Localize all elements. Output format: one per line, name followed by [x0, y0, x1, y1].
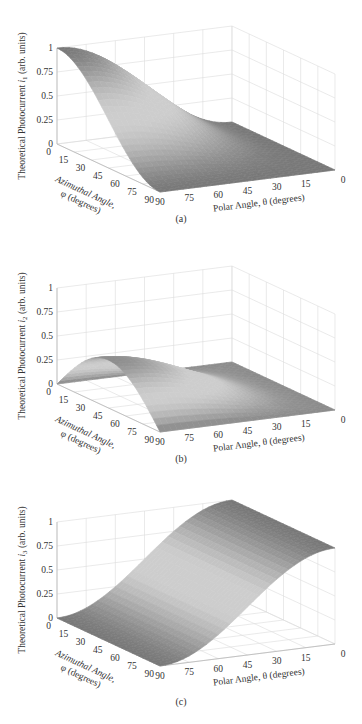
z-axis-label: Theoretical Photocurrent i3 (arb. units)	[17, 506, 29, 653]
surface	[57, 500, 335, 666]
phi-tick: 60	[110, 419, 120, 429]
z-tick: 0.75	[36, 307, 53, 317]
z-tick: 0.25	[36, 115, 53, 125]
theta-tick: 60	[214, 664, 224, 674]
plot-area: 00.250.50.75101530456075909075604530150T…	[17, 26, 346, 225]
panel-a: 00.250.50.75101530456075909075604530150T…	[0, 0, 362, 240]
theta-tick: 60	[214, 430, 224, 440]
phi-tick: 45	[93, 645, 103, 655]
theta-tick: 45	[243, 660, 253, 670]
phi-tick: 15	[59, 395, 69, 405]
panel-caption: (a)	[175, 213, 186, 225]
z-tick: 0.5	[41, 565, 53, 575]
phi-tick: 75	[127, 661, 137, 671]
theta-tick: 75	[184, 667, 194, 677]
theta-tick: 45	[243, 186, 253, 196]
phi-tick: 0	[46, 147, 51, 157]
plot-area: 00.250.50.75101530456075909075604530150T…	[17, 266, 346, 465]
phi-tick: 0	[46, 387, 51, 397]
theta-tick: 90	[155, 437, 165, 447]
theta-tick: 45	[243, 426, 253, 436]
surface-plot-b: 00.250.50.75101530456075909075604530150T…	[0, 240, 362, 480]
theta-tick: 0	[341, 175, 346, 185]
phi-tick: 90	[145, 669, 155, 679]
z-tick-labels: 00.250.50.751	[36, 43, 53, 149]
surface-plot-a: 00.250.50.75101530456075909075604530150T…	[0, 0, 362, 240]
theta-axis-label: Polar Angle, θ (degrees)	[213, 666, 306, 688]
phi-tick: 15	[59, 155, 69, 165]
theta-tick: 30	[272, 656, 282, 666]
z-tick: 0.5	[41, 91, 53, 101]
theta-tick: 75	[184, 433, 194, 443]
phi-tick: 30	[76, 163, 86, 173]
z-axis-label: Theoretical Photocurrent i2 (arb. units)	[17, 272, 29, 419]
phi-axis-label: Azimuthal Angle,φ (degrees)	[48, 647, 117, 695]
theta-tick: 90	[155, 197, 165, 207]
z-tick: 1	[48, 283, 53, 293]
theta-tick: 30	[272, 182, 282, 192]
phi-tick: 60	[110, 179, 120, 189]
theta-axis-label: Polar Angle, θ (degrees)	[213, 192, 306, 214]
phi-tick: 90	[145, 195, 155, 205]
panel-c: 00.250.50.75101530456075909075604530150T…	[0, 480, 362, 724]
z-tick: 0.25	[36, 355, 53, 365]
z-tick: 0.25	[36, 589, 53, 599]
theta-tick: 60	[214, 190, 224, 200]
theta-tick: 0	[341, 649, 346, 659]
theta-tick: 90	[155, 671, 165, 681]
theta-tick: 30	[272, 422, 282, 432]
z-tick: 1	[48, 43, 53, 53]
theta-tick: 75	[184, 193, 194, 203]
phi-tick: 75	[127, 187, 137, 197]
theta-tick: 15	[301, 179, 311, 189]
phi-axis-label: Azimuthal Angle,φ (degrees)	[48, 413, 117, 461]
theta-axis-label: Polar Angle, θ (degrees)	[213, 432, 306, 454]
z-tick: 1	[48, 517, 53, 527]
phi-tick: 45	[93, 411, 103, 421]
phi-axis-label: Azimuthal Angle,φ (degrees)	[48, 173, 117, 221]
z-tick-labels: 00.250.50.751	[36, 283, 53, 389]
theta-tick: 15	[301, 653, 311, 663]
panel-caption: (b)	[175, 453, 187, 465]
phi-tick: 90	[145, 435, 155, 445]
z-tick: 0.5	[41, 331, 53, 341]
theta-tick: 15	[301, 419, 311, 429]
phi-tick: 0	[46, 621, 51, 631]
z-axis-label: Theoretical Photocurrent i1 (arb. units)	[17, 32, 29, 179]
plot-area: 00.250.50.75101530456075909075604530150T…	[17, 500, 346, 708]
z-tick-labels: 00.250.50.751	[36, 517, 53, 623]
phi-tick: 30	[76, 637, 86, 647]
phi-tick: 45	[93, 171, 103, 181]
panel-caption: (c)	[175, 696, 186, 708]
phi-tick: 60	[110, 653, 120, 663]
z-tick: 0.75	[36, 67, 53, 77]
z-tick: 0.75	[36, 541, 53, 551]
phi-tick: 75	[127, 427, 137, 437]
phi-tick: 15	[59, 629, 69, 639]
phi-tick: 30	[76, 403, 86, 413]
panel-b: 00.250.50.75101530456075909075604530150T…	[0, 240, 362, 480]
surface-plot-c: 00.250.50.75101530456075909075604530150T…	[0, 480, 362, 724]
theta-tick: 0	[341, 415, 346, 425]
